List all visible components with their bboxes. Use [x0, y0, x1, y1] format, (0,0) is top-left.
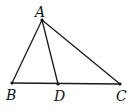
- triangle-diagram: A B D C: [0, 0, 134, 109]
- label-b: B: [5, 87, 16, 103]
- label-d: D: [53, 88, 65, 104]
- label-a: A: [33, 4, 45, 20]
- label-c: C: [116, 88, 127, 104]
- point-b: [10, 81, 13, 84]
- point-d: [56, 82, 59, 85]
- segment-ac: [42, 20, 120, 84]
- segment-ab: [12, 20, 42, 83]
- segment-bc: [12, 83, 120, 84]
- segment-ad: [42, 20, 58, 84]
- point-c: [118, 82, 121, 85]
